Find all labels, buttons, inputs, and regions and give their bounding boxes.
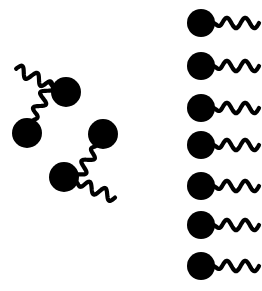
surfactant-head — [51, 77, 81, 107]
surfactant-diagram: Surfactant micelle and free monomers dia… — [0, 0, 262, 291]
surfactant-head — [88, 119, 118, 149]
surfactant-head — [187, 211, 215, 239]
surfactant-head — [187, 9, 215, 37]
surfactant-head — [187, 172, 215, 200]
surfactant-head — [187, 252, 215, 280]
surfactant-head — [187, 131, 215, 159]
surfactant-head — [187, 52, 215, 80]
diagram-canvas — [0, 0, 262, 291]
surfactant-head — [12, 118, 42, 148]
surfactant-head — [187, 94, 215, 122]
